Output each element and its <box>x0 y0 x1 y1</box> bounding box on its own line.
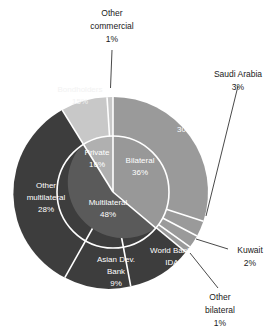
svg-text:3%: 3% <box>232 82 245 92</box>
svg-text:1%: 1% <box>106 34 119 44</box>
svg-text:Other: Other <box>36 181 56 190</box>
leader-kuwait <box>196 239 228 249</box>
svg-text:Saudi Arabia: Saudi Arabia <box>214 69 262 79</box>
svg-text:36%: 36% <box>132 168 148 177</box>
svg-text:multilateral: multilateral <box>27 193 66 202</box>
svg-text:Private: Private <box>85 148 110 157</box>
svg-text:9%: 9% <box>110 279 122 288</box>
svg-text:16%: 16% <box>89 160 105 169</box>
svg-text:1%: 1% <box>214 318 227 328</box>
svg-text:Multilateral: Multilateral <box>89 198 128 207</box>
leader-saudi-arabia <box>206 86 238 216</box>
svg-text:30%: 30% <box>177 125 193 134</box>
svg-text:World Bank-: World Bank- <box>150 246 194 255</box>
svg-text:Asian Dev.: Asian Dev. <box>97 255 135 264</box>
svg-text:28%: 28% <box>38 205 54 214</box>
svg-text:Kuwait: Kuwait <box>237 245 263 255</box>
svg-text:2%: 2% <box>244 258 257 268</box>
svg-text:15%: 15% <box>72 97 88 106</box>
svg-text:IDA: IDA <box>165 258 179 267</box>
svg-text:Other: Other <box>101 8 122 18</box>
svg-text:commercial: commercial <box>90 21 134 31</box>
label-other-bilateral: Other bilateral 1% <box>205 292 235 328</box>
svg-text:Bondholders: Bondholders <box>58 85 103 94</box>
svg-text:Bank: Bank <box>107 267 126 276</box>
svg-text:48%: 48% <box>100 210 116 219</box>
svg-text:Other: Other <box>209 292 230 302</box>
svg-text:China: China <box>175 113 196 122</box>
svg-text:bilateral: bilateral <box>205 305 235 315</box>
nested-pie-chart: Other commercial 1% Saudi Arabia 3% Kuwa… <box>0 0 277 334</box>
label-saudi-arabia: Saudi Arabia 3% <box>214 69 262 92</box>
chart-svg: Other commercial 1% Saudi Arabia 3% Kuwa… <box>0 0 277 334</box>
leader-other-commercial <box>111 50 113 88</box>
leader-other-bilateral <box>190 253 218 288</box>
label-other-commercial: Other commercial 1% <box>90 8 134 44</box>
svg-text:Bilateral: Bilateral <box>126 156 155 165</box>
svg-text:11%: 11% <box>164 270 179 279</box>
label-kuwait: Kuwait 2% <box>237 245 263 268</box>
